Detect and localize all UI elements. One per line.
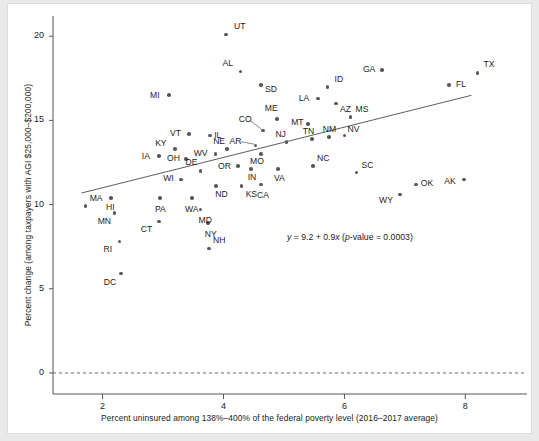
data-point — [167, 93, 171, 97]
data-point — [414, 183, 418, 187]
data-point — [447, 83, 451, 87]
point-label: PA — [155, 204, 166, 214]
point-label: KS — [246, 189, 257, 199]
data-point — [275, 117, 279, 121]
chart-card: Percent change (among taxpayers with AGI… — [8, 4, 531, 433]
data-point — [109, 196, 113, 200]
y-tick-label: 15 — [20, 114, 44, 124]
data-point — [334, 102, 338, 106]
data-point — [225, 147, 229, 151]
point-label: FL — [456, 79, 466, 89]
point-label: HI — [106, 202, 115, 212]
y-tick-label: 10 — [20, 199, 44, 209]
point-label: NJ — [275, 129, 286, 139]
point-label: AZ — [340, 104, 351, 114]
point-label: AL — [222, 58, 233, 68]
point-label: KY — [155, 138, 166, 148]
point-label: RI — [104, 244, 113, 254]
point-label: MA — [90, 193, 103, 203]
point-label: VA — [274, 173, 285, 183]
point-label: MO — [250, 156, 264, 166]
data-point — [190, 196, 194, 200]
x-tick-label: 8 — [450, 401, 480, 411]
point-label: MI — [150, 90, 160, 100]
point-label: IA — [142, 151, 150, 161]
data-point — [310, 137, 314, 141]
y-tick-label: 20 — [20, 30, 44, 40]
x-tick-label: 6 — [329, 401, 359, 411]
data-point — [224, 33, 228, 37]
point-label: CA — [257, 190, 269, 200]
point-label: WA — [185, 204, 199, 214]
point-label: AK — [444, 176, 455, 186]
point-label: GA — [363, 64, 375, 74]
point-label: MD — [199, 215, 212, 225]
point-label: ND — [215, 189, 227, 199]
point-label: ID — [335, 74, 344, 84]
x-tick-label: 2 — [88, 401, 118, 411]
point-label: IN — [248, 172, 257, 182]
point-label: TX — [483, 59, 494, 69]
point-label: OH — [167, 153, 180, 163]
regression-annotation: y = 9.2 + 0.9x (p-value = 0.0003) — [287, 232, 413, 242]
data-point — [349, 115, 353, 119]
data-point — [119, 272, 123, 276]
data-point — [259, 183, 263, 187]
point-label: VT — [170, 128, 181, 138]
y-tick-label: 0 — [20, 367, 44, 377]
data-point — [327, 135, 331, 139]
data-point — [380, 68, 384, 72]
point-label: ME — [265, 103, 278, 113]
point-label: MT — [291, 117, 303, 127]
point-label: CO — [239, 114, 252, 124]
data-point — [157, 154, 161, 158]
point-label: NE — [213, 136, 225, 146]
data-point — [207, 247, 211, 251]
data-point — [311, 164, 315, 168]
point-label: OK — [421, 178, 433, 188]
point-label: NC — [317, 153, 329, 163]
data-point — [179, 178, 183, 182]
data-point — [261, 129, 265, 133]
point-label: UT — [234, 21, 245, 31]
point-label: OR — [218, 161, 231, 171]
point-label: WI — [163, 173, 174, 183]
data-point — [214, 184, 218, 188]
x-tick-label: 4 — [209, 401, 239, 411]
data-point — [398, 193, 402, 197]
data-point — [316, 97, 320, 101]
point-label: NH — [213, 235, 225, 245]
scatter-plot-svg — [8, 4, 531, 433]
point-label: DC — [104, 277, 116, 287]
point-label: MS — [355, 104, 368, 114]
data-point — [249, 167, 253, 171]
data-point — [462, 178, 466, 182]
data-point — [199, 169, 203, 173]
point-label: NV — [347, 124, 359, 134]
point-label: LA — [299, 93, 310, 103]
point-label: WY — [379, 195, 393, 205]
point-label: SD — [265, 84, 277, 94]
data-point — [276, 167, 280, 171]
point-label: CT — [141, 224, 152, 234]
data-point — [259, 83, 263, 87]
point-label: MN — [98, 216, 111, 226]
data-point — [326, 85, 330, 89]
data-point — [173, 147, 177, 151]
data-point — [236, 164, 240, 168]
data-point — [187, 132, 191, 136]
point-label: AR — [230, 136, 242, 146]
point-label: TN — [303, 126, 314, 136]
data-point — [157, 220, 161, 224]
y-tick-label: 5 — [20, 283, 44, 293]
point-label: NM — [323, 124, 336, 134]
point-label: DE — [186, 157, 198, 167]
point-label: SC — [362, 160, 374, 170]
axes-group — [49, 16, 527, 399]
data-point — [158, 196, 162, 200]
